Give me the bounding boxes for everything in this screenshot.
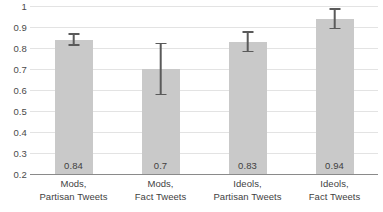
y-axis-tick-label: 0.7	[0, 64, 27, 75]
x-axis-category-label: Mods,Partisan Tweets	[30, 178, 117, 203]
x-axis-category-label: Ideols,Partisan Tweets	[204, 178, 291, 203]
error-bar	[242, 31, 253, 52]
error-bar-cap-lower	[242, 51, 253, 53]
y-axis-tick-label: 0.2	[0, 169, 27, 180]
y-axis-tick-label: 0.4	[0, 127, 27, 138]
category-label-line-1: Ideols,	[291, 178, 378, 191]
y-axis-tick-label: 0.3	[0, 148, 27, 159]
bar-value-label: 0.94	[325, 160, 344, 171]
plot-area: 0.840.70.830.94	[30, 6, 378, 174]
category-label-line-2: Fact Tweets	[117, 191, 204, 204]
error-bar-cap-lower	[329, 28, 340, 30]
category-label-line-2: Partisan Tweets	[30, 191, 117, 204]
y-axis: 0.20.30.40.50.60.70.80.91	[0, 0, 27, 212]
error-bar-stem	[160, 43, 162, 96]
y-axis-tick-label: 0.9	[0, 22, 27, 33]
category-label-line-2: Fact Tweets	[291, 191, 378, 204]
error-bar-stem	[247, 31, 249, 52]
bar-value-label: 0.84	[64, 160, 83, 171]
bar-value-label: 0.7	[154, 160, 168, 171]
bar-chart: 0.20.30.40.50.60.70.80.91 0.840.70.830.9…	[0, 0, 383, 212]
error-bar-cap-upper	[242, 31, 253, 33]
error-bar	[68, 33, 79, 46]
error-bar-cap-upper	[329, 8, 340, 10]
y-axis-tick-label: 1	[0, 1, 27, 12]
error-bar-cap-upper	[68, 33, 79, 35]
error-bar	[329, 8, 340, 29]
y-axis-tick-label: 0.8	[0, 43, 27, 54]
error-bar-cap-upper	[155, 43, 166, 45]
x-axis-line	[30, 174, 378, 175]
x-axis-category-label: Mods,Fact Tweets	[117, 178, 204, 203]
category-label-line-2: Partisan Tweets	[204, 191, 291, 204]
bar-group: 0.94	[291, 6, 378, 174]
bar-group: 0.84	[30, 6, 117, 174]
category-label-line-1: Mods,	[117, 178, 204, 191]
bar	[229, 42, 267, 174]
error-bar-cap-lower	[68, 44, 79, 46]
category-label-line-1: Ideols,	[204, 178, 291, 191]
error-bar-stem	[334, 8, 336, 29]
y-axis-tick-label: 0.5	[0, 106, 27, 117]
category-label-line-1: Mods,	[30, 178, 117, 191]
bar	[55, 40, 93, 174]
y-axis-tick-label: 0.6	[0, 85, 27, 96]
bar-value-label: 0.83	[238, 160, 257, 171]
x-axis-category-label: Ideols,Fact Tweets	[291, 178, 378, 203]
error-bar-cap-lower	[155, 94, 166, 96]
x-axis-category-labels: Mods,Partisan TweetsMods,Fact TweetsIdeo…	[30, 176, 378, 212]
bar	[316, 19, 354, 174]
bars-layer: 0.840.70.830.94	[30, 6, 378, 174]
bar-group: 0.83	[204, 6, 291, 174]
bar-group: 0.7	[117, 6, 204, 174]
error-bar	[155, 43, 166, 96]
